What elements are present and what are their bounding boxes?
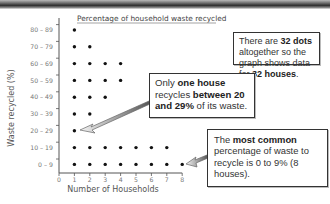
data-dot	[73, 96, 76, 99]
data-dot	[73, 163, 76, 166]
data-dot	[119, 146, 122, 149]
data-dot	[73, 146, 76, 149]
callout-bold-text: 32 dots	[281, 36, 313, 46]
data-dot	[104, 96, 107, 99]
x-tick-label: 1	[72, 176, 76, 183]
callout-text: The	[214, 134, 233, 145]
data-dot	[73, 112, 76, 115]
y-tick-label: 40 – 49	[30, 93, 53, 100]
callout-one-house: Only one house recycles between 20 and 2…	[149, 73, 255, 118]
data-dot	[73, 28, 76, 31]
callout-text: .	[296, 69, 299, 79]
x-tick-label: 3	[103, 176, 107, 183]
y-tick-label: 0 – 9	[38, 161, 53, 168]
data-dot	[150, 163, 153, 166]
data-dot	[73, 45, 76, 48]
y-tick-label: 60 – 69	[30, 60, 53, 67]
data-dot	[104, 79, 107, 82]
data-dot	[119, 62, 122, 65]
x-tick-label: 6	[149, 176, 153, 183]
data-dot	[119, 163, 122, 166]
x-tick-label: 2	[88, 176, 92, 183]
data-dot	[88, 96, 91, 99]
data-dot	[73, 79, 76, 82]
data-dot	[104, 62, 107, 65]
data-dot	[104, 163, 107, 166]
callout-bold-text: 32 houses	[252, 69, 296, 79]
y-tick-label: 50 – 59	[30, 77, 53, 84]
x-tick-label: 5	[134, 176, 138, 183]
data-dot	[134, 163, 137, 166]
callout-text: There are	[239, 36, 281, 46]
y-axis-title: Waste recycled (%)	[7, 69, 16, 146]
callout-most-common: The most common percentage of waste to r…	[207, 129, 328, 187]
callout-text: Only	[155, 77, 177, 88]
y-tick-label: 30 – 39	[30, 110, 53, 117]
callout-text: of its waste.	[194, 100, 247, 111]
data-dot	[181, 163, 184, 166]
data-dot	[73, 129, 76, 132]
x-axis-title: Number of Households	[67, 185, 158, 194]
data-dot	[134, 146, 137, 149]
data-dot	[88, 62, 91, 65]
chart-title: Percentage of household waste recycled	[77, 14, 227, 23]
y-tick-label: 80 – 89	[30, 26, 53, 33]
callout-total-dots: There are 32 dots altogether so the grap…	[233, 32, 320, 65]
data-dot	[73, 62, 76, 65]
y-tick-label: 20 – 29	[30, 127, 53, 134]
x-tick-label: 8	[180, 176, 184, 183]
x-tick-label: 7	[165, 176, 169, 183]
data-dot	[119, 79, 122, 82]
callout-text: percentage of waste to recycle is 0 to 9…	[214, 145, 309, 179]
arrow-to-0-9-row	[186, 155, 208, 167]
data-dot	[88, 112, 91, 115]
data-dot	[88, 45, 91, 48]
data-dot	[150, 146, 153, 149]
data-dot	[88, 146, 91, 149]
data-dot	[88, 79, 91, 82]
arrow-to-20-29-row	[80, 101, 150, 133]
x-tick-label: 0	[57, 176, 61, 183]
callout-bold-text: most common	[233, 134, 297, 145]
callout-text: recycles	[155, 89, 193, 100]
data-dot	[88, 163, 91, 166]
data-dot	[165, 163, 168, 166]
data-dot	[165, 146, 168, 149]
data-dot	[104, 146, 107, 149]
x-tick-label: 4	[119, 176, 123, 183]
y-tick-label: 70 – 79	[30, 43, 53, 50]
y-tick-label: 10 – 19	[30, 144, 53, 151]
callout-bold-text: one house	[177, 77, 225, 88]
